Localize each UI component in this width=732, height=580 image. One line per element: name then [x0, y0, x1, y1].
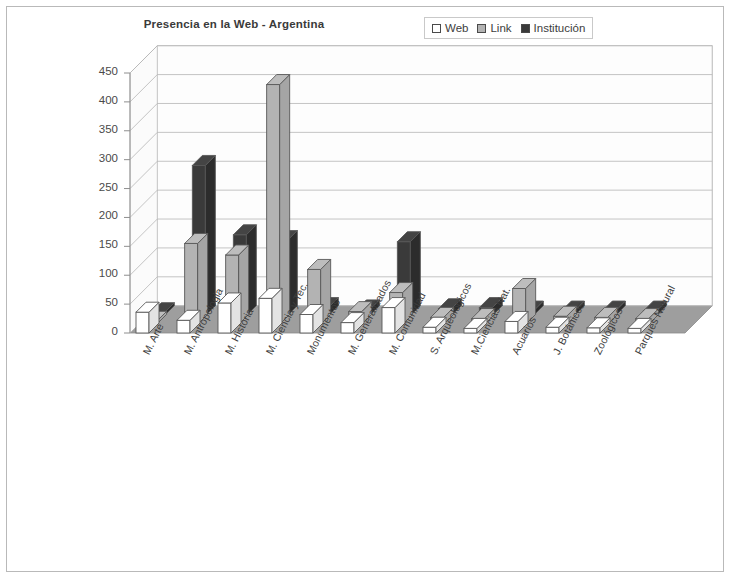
- legend-item-web: Web: [432, 22, 468, 34]
- gray-square-icon: [477, 24, 486, 33]
- bar-column: [267, 75, 290, 325]
- y-axis-tick-label: 0: [82, 325, 118, 337]
- y-axis-tick-label: 200: [82, 209, 118, 221]
- y-axis-tick-label: 450: [82, 65, 118, 77]
- y-axis-tick-label: 100: [82, 267, 118, 279]
- y-axis-tick-label: 300: [82, 152, 118, 164]
- legend-label-institucion: Institución: [534, 22, 586, 34]
- legend-item-link: Link: [477, 22, 511, 34]
- legend-label-link: Link: [490, 22, 511, 34]
- white-square-icon: [432, 24, 441, 33]
- y-axis-tick-label: 50: [82, 296, 118, 308]
- chart-legend: Web Link Institución: [424, 17, 593, 39]
- y-axis-tick-label: 250: [82, 181, 118, 193]
- y-axis-tick-label: 350: [82, 123, 118, 135]
- chart-3d-scene: [0, 0, 732, 580]
- legend-label-web: Web: [445, 22, 468, 34]
- chart-title: Presencia en la Web - Argentina: [84, 18, 384, 30]
- y-axis-tick-label: 150: [82, 238, 118, 250]
- legend-item-institucion: Institución: [521, 22, 586, 34]
- y-axis-tick-label: 400: [82, 94, 118, 106]
- black-square-icon: [521, 24, 530, 33]
